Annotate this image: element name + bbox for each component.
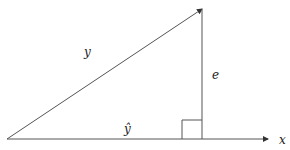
right-angle-marker — [182, 120, 202, 139]
y-vector-line — [7, 9, 202, 139]
label-e: e — [212, 68, 219, 82]
label-y-hat: ŷ — [123, 122, 131, 136]
label-x: x — [279, 133, 286, 147]
label-y: y — [83, 45, 91, 59]
projection-diagram: y ŷ e x — [0, 0, 290, 150]
